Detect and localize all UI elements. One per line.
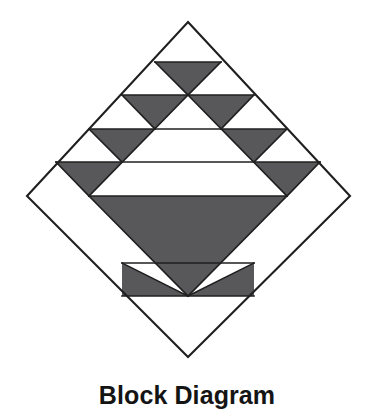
block-diagram-figure: Block Diagram [0, 0, 374, 418]
figure-caption: Block Diagram [0, 378, 374, 418]
block-diagram-graphic [0, 0, 374, 378]
